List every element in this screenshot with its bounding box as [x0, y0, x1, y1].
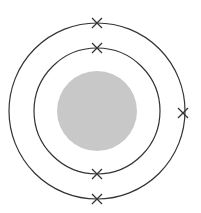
electron-cross-icon — [178, 108, 188, 118]
atom-diagram — [0, 0, 201, 213]
nucleus — [57, 71, 137, 151]
